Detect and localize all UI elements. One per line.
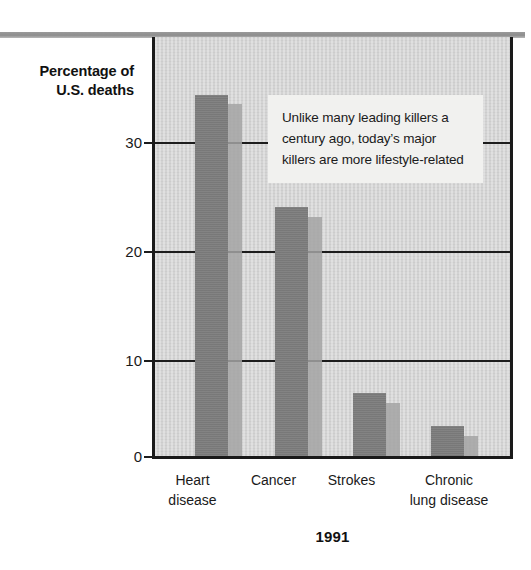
bar-chronic-lung-disease[interactable] [431, 426, 464, 456]
bar-shadow-strokes [386, 403, 400, 456]
x-tick-label-heart-disease-line-1: Heart [150, 470, 235, 490]
y-tick-label-10: 10 [104, 353, 142, 368]
x-tick-label-heart-disease: Heart disease [150, 470, 235, 510]
bar-shadow-chronic-lung-disease [464, 436, 478, 456]
callout-line-3: killers are more lifestyle-related [282, 149, 469, 170]
callout-annotation: Unlike many leading killers a century ag… [268, 95, 483, 183]
plot-area: Unlike many leading killers a century ag… [152, 37, 513, 459]
y-tick-label-30: 30 [104, 135, 142, 150]
bar-cancer[interactable] [275, 207, 308, 456]
x-tick-label-cancer: Cancer [232, 470, 315, 490]
y-axis-title-line-2: U.S. deaths [4, 81, 134, 100]
bar-strokes[interactable] [353, 393, 386, 456]
callout-line-2: century ago, today’s major [282, 128, 469, 149]
x-tick-label-chronic-lung-disease: Chronic lung disease [385, 470, 513, 510]
x-axis-caption: 1991 [152, 528, 513, 545]
callout-line-1: Unlike many leading killers a [282, 107, 469, 128]
x-tick-label-chronic-lung-disease-line-2: lung disease [385, 490, 513, 510]
bar-shadow-cancer [308, 217, 322, 456]
x-tick-label-cancer-line-1: Cancer [232, 470, 315, 490]
y-axis-title-line-1: Percentage of [4, 62, 134, 81]
bar-shadow-heart-disease [228, 104, 242, 456]
y-tick-label-0: 0 [104, 449, 142, 464]
bar-heart-disease[interactable] [195, 95, 228, 456]
y-axis-title: Percentage of U.S. deaths [4, 62, 134, 100]
x-tick-label-heart-disease-line-2: disease [150, 490, 235, 510]
y-tick-label-20: 20 [104, 244, 142, 259]
x-tick-label-strokes: Strokes [310, 470, 393, 490]
x-tick-label-chronic-lung-disease-line-1: Chronic [385, 470, 513, 490]
x-tick-label-strokes-line-1: Strokes [310, 470, 393, 490]
